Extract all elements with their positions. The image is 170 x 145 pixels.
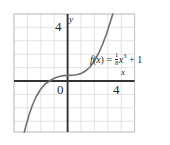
grid-horizontal [14,14,135,132]
y-axis-tick-label: 4 [55,20,62,33]
coefficient-fraction: 18 [115,52,118,66]
plus-sign: + [129,54,135,65]
graph-figure [0,0,170,145]
x-axis-name-label: x [121,68,125,77]
grid-vertical [14,14,135,132]
equals-sign: = [106,54,112,65]
fraction-numerator: 1 [115,52,118,59]
constant-term: 1 [137,54,142,65]
exponent: 3 [123,52,126,59]
plot-frame [14,14,135,132]
function-curve [24,14,113,132]
fraction-denominator: 8 [115,59,118,67]
function-equation-label: f(x) = 18x3 + 1 [90,52,142,66]
close-paren: ) [101,54,104,65]
origin-label: 0 [57,83,64,96]
y-axis-name-label: y [69,15,73,24]
x-axis-tick-label: 4 [113,83,120,96]
